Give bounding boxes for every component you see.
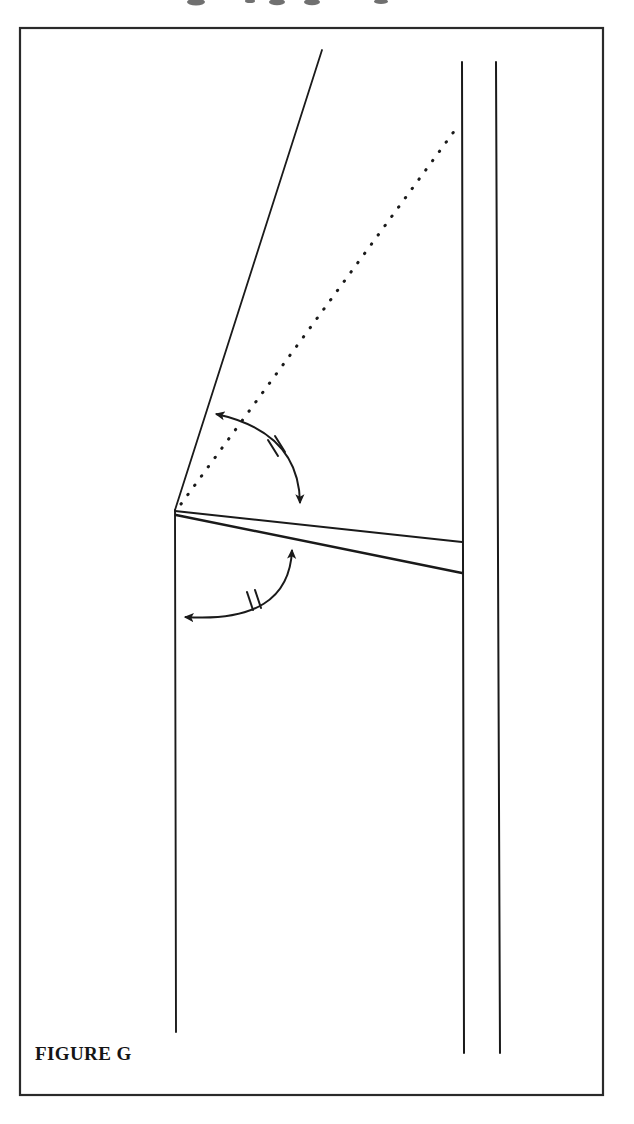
dotted-bisector-ray xyxy=(181,126,458,504)
upper-angle-arc xyxy=(216,414,300,503)
slanted-upper-ray xyxy=(175,50,322,510)
beam-top-edge xyxy=(175,511,462,542)
cropped-top-text-remnant xyxy=(187,0,388,5)
beam-bottom-edge xyxy=(176,515,462,573)
figure-g-diagram xyxy=(0,0,634,1124)
vertical-reference-line-inner xyxy=(462,62,464,1053)
lower-angle-arc xyxy=(185,550,292,618)
figure-border xyxy=(20,28,603,1095)
figure-page: FIGURE G xyxy=(0,0,634,1124)
vertical-reference-line-outer xyxy=(496,62,500,1053)
vertical-lower-ray xyxy=(175,510,176,1032)
figure-caption-label: FIGURE G xyxy=(35,1043,132,1065)
